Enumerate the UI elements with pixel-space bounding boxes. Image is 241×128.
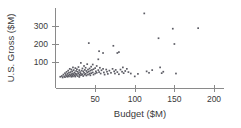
data-point: [86, 63, 88, 65]
data-point: [92, 72, 94, 74]
data-point: [123, 72, 125, 74]
data-point: [104, 74, 106, 76]
data-point: [115, 69, 117, 71]
data-point: [93, 68, 95, 70]
y-tick-label: 300: [34, 21, 48, 31]
data-point: [85, 73, 87, 75]
data-point: [120, 69, 122, 71]
data-point: [71, 76, 73, 78]
data-point: [121, 71, 123, 73]
data-point: [82, 73, 84, 75]
data-point: [68, 72, 70, 74]
data-point: [86, 75, 88, 77]
data-point: [110, 72, 112, 74]
data-point: [82, 75, 84, 77]
data-point: [84, 69, 86, 71]
data-point: [71, 69, 73, 71]
data-point: [124, 70, 126, 72]
data-point: [76, 68, 78, 70]
data-point: [159, 67, 161, 69]
data-point: [101, 69, 103, 71]
data-point: [74, 67, 76, 69]
data-point: [77, 75, 79, 77]
data-point: [137, 73, 139, 75]
y-axis-title: U.S. Gross ($M): [5, 14, 16, 83]
data-point: [94, 67, 96, 69]
data-point: [68, 76, 70, 78]
data-point: [64, 76, 66, 78]
data-point: [94, 73, 96, 75]
data-point: [91, 69, 93, 71]
data-point: [148, 72, 150, 74]
data-point: [66, 71, 68, 73]
data-point: [98, 50, 100, 52]
data-point: [70, 71, 72, 73]
data-point: [105, 69, 107, 71]
data-point: [78, 76, 80, 78]
x-axis-ticks: 50100150200: [90, 85, 221, 104]
data-point: [172, 28, 174, 30]
data-point: [80, 62, 82, 64]
scatter-plot-figure: 100200300 50100150200 U.S. Gross ($M) Bu…: [0, 0, 241, 128]
data-point: [146, 71, 148, 73]
data-point: [143, 13, 145, 15]
data-point: [78, 66, 80, 68]
data-point: [116, 52, 118, 54]
x-axis-title: Budget ($M): [114, 108, 166, 119]
x-tick-label: 200: [207, 94, 221, 104]
x-tick-label: 50: [90, 94, 100, 104]
data-point: [116, 71, 118, 73]
data-point: [64, 72, 66, 74]
data-point: [69, 68, 71, 70]
data-point: [62, 77, 64, 79]
y-tick-label: 100: [34, 57, 48, 67]
data-point: [73, 69, 75, 71]
data-point: [75, 70, 77, 72]
data-point: [90, 72, 92, 74]
data-point: [89, 68, 91, 70]
data-point: [97, 58, 99, 60]
data-point: [102, 68, 104, 70]
data-point: [126, 68, 128, 70]
data-point: [93, 74, 95, 76]
data-point: [74, 76, 76, 78]
data-point: [87, 69, 89, 71]
data-point: [82, 68, 84, 70]
data-point: [112, 68, 114, 70]
data-point: [85, 67, 87, 69]
data-point: [92, 64, 94, 66]
data-point: [151, 69, 153, 71]
data-point: [59, 76, 61, 78]
data-point: [197, 27, 199, 29]
data-point: [78, 69, 80, 71]
data-point: [87, 74, 89, 76]
data-point: [72, 67, 74, 69]
data-point: [113, 71, 115, 73]
data-point: [175, 73, 177, 75]
x-tick-label: 100: [128, 94, 142, 104]
data-point: [102, 52, 104, 54]
data-point: [109, 70, 111, 72]
data-point: [79, 74, 81, 76]
data-point: [130, 73, 132, 75]
plot-canvas: 100200300 50100150200 U.S. Gross ($M) Bu…: [0, 0, 241, 128]
data-point: [71, 71, 73, 73]
data-point: [162, 71, 164, 73]
data-point: [99, 67, 101, 69]
data-point: [83, 65, 85, 67]
data-point: [161, 72, 163, 74]
data-point: [76, 73, 78, 75]
data-point-layer: [59, 13, 199, 79]
data-point: [88, 42, 90, 44]
data-point: [88, 71, 90, 73]
data-point: [96, 72, 98, 74]
data-point: [113, 45, 115, 47]
data-point: [134, 76, 136, 78]
data-point: [98, 71, 100, 73]
data-point: [122, 67, 124, 69]
data-point: [118, 73, 120, 75]
data-point: [72, 76, 74, 78]
data-point: [96, 65, 98, 67]
data-point: [90, 70, 92, 72]
data-point: [114, 73, 116, 75]
